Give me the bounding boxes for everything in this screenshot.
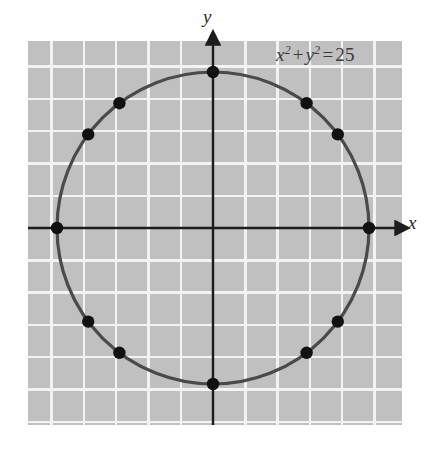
data-point — [207, 378, 219, 390]
x-axis-label: x — [408, 212, 416, 234]
circle-graph-figure: y x x2+y2=25 — [0, 0, 431, 450]
data-point — [51, 222, 63, 234]
equation-exp-x: 2 — [285, 44, 291, 57]
equation-annotation: x2+y2=25 — [276, 44, 355, 66]
data-point — [113, 97, 125, 109]
data-point — [82, 315, 94, 327]
data-point — [332, 128, 344, 140]
data-point — [300, 347, 312, 359]
data-point — [82, 128, 94, 140]
equation-value: 25 — [335, 44, 354, 65]
data-point — [207, 66, 219, 78]
y-axis-label: y — [203, 6, 211, 28]
equation-operator: + — [291, 44, 306, 65]
equation-var-y: y — [306, 44, 315, 65]
data-point — [332, 315, 344, 327]
plot-canvas — [0, 0, 431, 450]
equation-equals: = — [320, 44, 335, 65]
data-point — [363, 222, 375, 234]
equation-var-x: x — [276, 44, 285, 65]
data-point — [113, 347, 125, 359]
data-point — [300, 97, 312, 109]
